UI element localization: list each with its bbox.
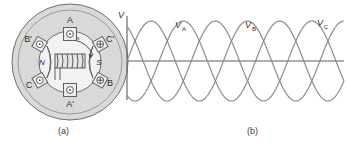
phase-c-subscript: C [324, 24, 329, 30]
slot-label-a: A [67, 15, 73, 25]
phase-a-label: V [175, 20, 182, 30]
slot-label-a-prime: A' [66, 99, 74, 109]
caption-a: (a) [58, 126, 69, 136]
slot-label-b-prime: B' [24, 34, 32, 44]
slot-label-c-prime: C' [106, 34, 114, 44]
caption-b: (b) [247, 126, 258, 136]
slot-label-b: B [107, 78, 113, 88]
current-out-dot-icon [39, 79, 41, 81]
voltage-axis-label: V [118, 10, 125, 20]
phase-a-subscript: A [182, 26, 186, 32]
waveform-plot: V V A V B V C [118, 10, 344, 101]
figure-root: N S ω s A C' [0, 0, 348, 149]
phase-b-annotation: V B [245, 20, 256, 32]
phase-b-label: V [245, 20, 252, 30]
rotor-north-pole-label: N [39, 58, 45, 67]
slot-label-c: C [26, 80, 33, 90]
phase-c-annotation: V C [317, 18, 329, 30]
current-out-dot-icon [39, 43, 41, 45]
figure-canvas: N S ω s A C' [0, 0, 348, 149]
rotor-south-pole-label: S [96, 58, 102, 67]
phase-b-subscript: B [252, 26, 256, 32]
current-out-dot-icon [69, 89, 71, 91]
machine-diagram: N S ω s A C' [12, 4, 128, 120]
current-out-dot-icon [69, 33, 71, 35]
rotor-speed-subscript: s [77, 35, 80, 41]
